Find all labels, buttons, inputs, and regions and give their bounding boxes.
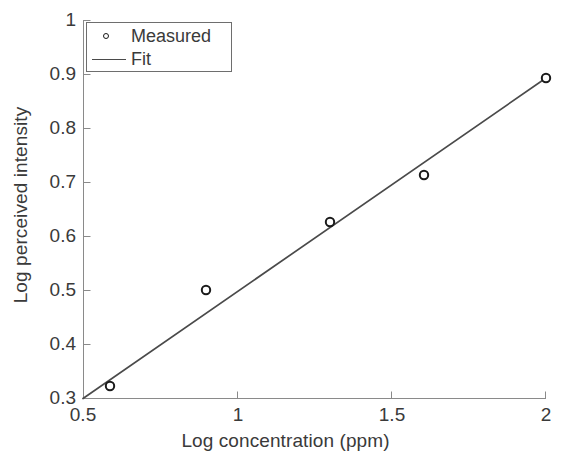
legend-label-measured: Measured — [131, 27, 211, 45]
legend-entry-fit: Fit — [87, 46, 231, 71]
legend: Measured Fit — [86, 22, 232, 72]
x-axis-ticks — [84, 392, 546, 399]
legend-entry-measured: Measured — [87, 23, 231, 48]
data-point-0 — [106, 382, 114, 390]
data-point-2 — [326, 218, 334, 226]
line-sample-icon — [92, 59, 126, 60]
x-tick-label-2: 1.5 — [379, 404, 405, 426]
data-point-3 — [420, 171, 428, 179]
x-tick-label-3: 2 — [541, 404, 552, 426]
y-axis-title: Log perceived intensity — [10, 15, 36, 395]
y-axis-ticks — [84, 21, 91, 399]
legend-sample-measured — [87, 23, 131, 48]
legend-label-fit: Fit — [131, 50, 151, 68]
figure-plot-area: 0.5 1 1.5 2 0.3 0.4 0.5 0.6 0.7 0.8 0.9 … — [0, 0, 571, 472]
open-circle-marker-icon — [103, 33, 109, 39]
data-point-1 — [202, 286, 210, 294]
legend-sample-fit — [87, 46, 131, 71]
fit-line-series — [83, 78, 546, 399]
x-tick-label-1: 1 — [233, 404, 244, 426]
x-axis-title: Log concentration (ppm) — [0, 430, 571, 452]
data-point-4 — [542, 74, 550, 82]
